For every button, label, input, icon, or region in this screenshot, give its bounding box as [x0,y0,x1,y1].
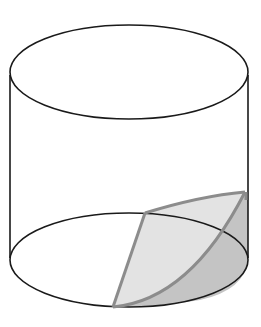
top-face [10,25,248,119]
cylinder-diagram [0,0,261,327]
